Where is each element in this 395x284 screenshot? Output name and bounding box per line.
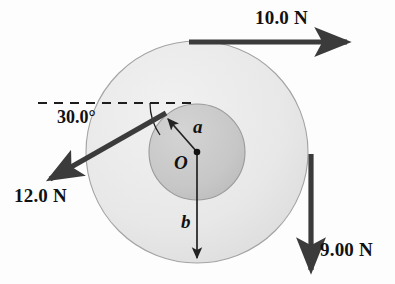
origin-label-O: O xyxy=(174,153,188,172)
radius-label-a: a xyxy=(193,117,203,136)
center-point-dot xyxy=(194,149,201,156)
force-label-9N: 9.00 N xyxy=(320,240,373,259)
force-diagram-figure: 10.0 N 12.0 N 9.00 N 30.0° a b O xyxy=(0,0,395,284)
force-label-10N: 10.0 N xyxy=(255,8,308,27)
angle-label-30-degrees: 30.0° xyxy=(57,108,96,126)
force-label-12N: 12.0 N xyxy=(14,186,67,205)
radius-label-b: b xyxy=(181,212,191,231)
